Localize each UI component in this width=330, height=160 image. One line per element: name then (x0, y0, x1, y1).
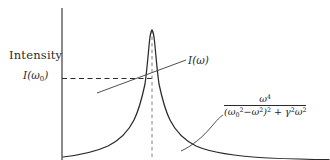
denominator-omega-last-exponent: 2 (302, 107, 306, 114)
curve-label-omega-symbol: ω (196, 54, 205, 66)
denominator-group-exponent: 2 (267, 107, 271, 114)
figure-background (0, 0, 330, 160)
denominator-plus-sign: + (274, 106, 282, 117)
y-axis-label: Intensity (9, 48, 62, 62)
curve-label-close-paren: ) (205, 54, 209, 66)
tick-omega-symbol: ω (31, 69, 40, 81)
numerator-omega-exponent: 4 (267, 93, 271, 100)
formula-numerator: ω4 (224, 94, 306, 106)
numerator-omega-symbol: ω (259, 93, 267, 104)
formula-annotation: ω4 (ω02−ω2)2 + γ2ω2 (224, 94, 306, 119)
y-axis-tick-label-peak-intensity: I(ω0) (23, 69, 48, 83)
formula-denominator: (ω02−ω2)2 + γ2ω2 (224, 106, 306, 119)
curve-label: I(ω) (188, 54, 209, 66)
tick-close-paren: ) (44, 69, 48, 81)
resonance-lineshape-figure (0, 0, 330, 160)
